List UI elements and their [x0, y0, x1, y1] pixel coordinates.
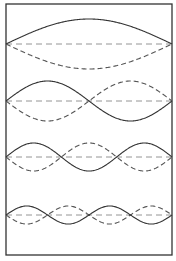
diagram-frame: [6, 4, 172, 255]
harmonic-mode-2: [6, 81, 172, 121]
standing-waves-diagram: [0, 0, 176, 261]
wave-solid: [6, 19, 172, 44]
harmonic-mode-4: [6, 206, 172, 224]
harmonic-mode-1: [6, 19, 172, 69]
harmonic-mode-3: [6, 143, 172, 171]
wave-dashed: [6, 44, 172, 69]
